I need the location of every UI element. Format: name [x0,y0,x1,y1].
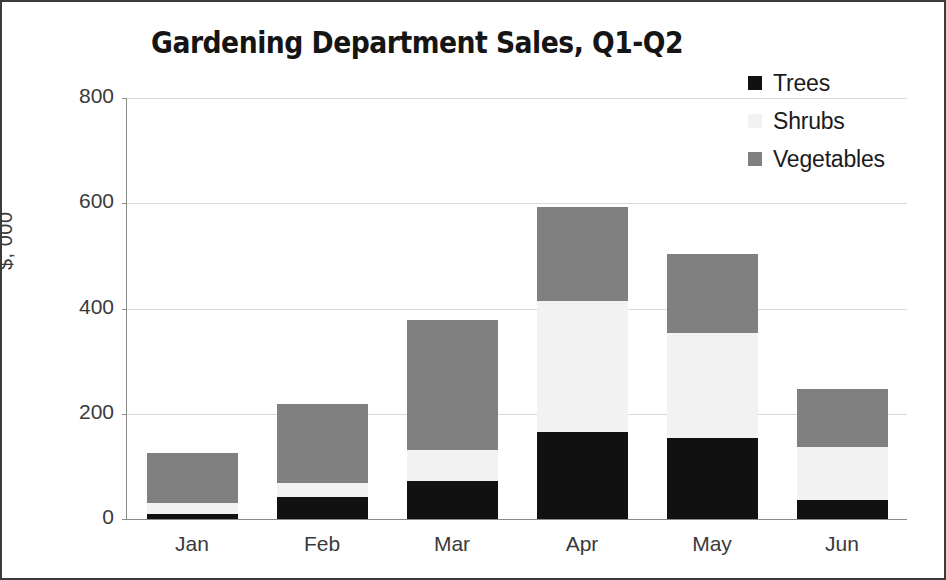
x-axis-tick-label-jan: Jan [132,532,252,556]
bar-segment-shrubs[interactable] [147,503,238,514]
y-axis-tick [122,98,127,99]
bar-segment-shrubs[interactable] [797,447,888,499]
y-axis-tick-label: 200 [54,400,114,424]
plot-area [127,98,907,519]
bar-column-jan[interactable] [147,98,238,519]
bar-segment-vegetables[interactable] [277,404,368,483]
bar-segment-shrubs[interactable] [277,483,368,497]
gridline [127,203,907,204]
y-axis-tick-label: 800 [54,84,114,108]
gridline [127,309,907,310]
y-axis-tick-labels: 0200400600800 [52,98,114,519]
x-axis-tick-label-feb: Feb [262,532,382,556]
x-axis-tick-label-may: May [652,532,772,556]
x-axis-tick-label-apr: Apr [522,532,642,556]
y-axis-tick [122,203,127,204]
bar-segment-vegetables[interactable] [147,453,238,503]
legend-label-trees: Trees [773,70,830,97]
bar-segment-trees[interactable] [277,497,368,519]
bar-segment-trees[interactable] [407,481,498,519]
x-axis-tick-label-jun: Jun [782,532,902,556]
gridline [127,98,907,99]
bar-segment-vegetables[interactable] [537,207,628,301]
y-axis-tick-label: 0 [54,505,114,529]
bar-segment-trees[interactable] [797,500,888,519]
bar-column-feb[interactable] [277,98,368,519]
legend-swatch-trees [748,76,762,90]
bar-column-may[interactable] [667,98,758,519]
legend-item-trees[interactable]: Trees [748,64,928,102]
x-axis-tick-labels: JanFebMarAprMayJun [127,532,907,566]
bar-segment-trees[interactable] [667,438,758,519]
y-axis-tick-label: 400 [54,295,114,319]
bar-segment-vegetables[interactable] [407,320,498,449]
y-axis-tick [122,414,127,415]
bar-segment-trees[interactable] [537,432,628,519]
bar-segment-shrubs[interactable] [537,301,628,433]
bar-segment-vegetables[interactable] [667,254,758,333]
y-axis-tick [122,309,127,310]
gridline [127,414,907,415]
bar-column-apr[interactable] [537,98,628,519]
chart-screenshot: Gardening Department Sales, Q1-Q2 Trees … [0,0,946,580]
y-axis-tick-label: 600 [54,189,114,213]
bar-segment-shrubs[interactable] [667,333,758,438]
bar-column-jun[interactable] [797,98,888,519]
y-axis-title: $, 000 [0,211,17,270]
bar-segment-shrubs[interactable] [407,450,498,482]
bar-segment-trees[interactable] [147,514,238,519]
x-axis-line [126,519,907,520]
y-axis-tick [122,519,127,520]
bar-segment-vegetables[interactable] [797,389,888,447]
x-axis-tick-label-mar: Mar [392,532,512,556]
page-title: Gardening Department Sales, Q1-Q2 [60,24,774,60]
bar-column-mar[interactable] [407,98,498,519]
